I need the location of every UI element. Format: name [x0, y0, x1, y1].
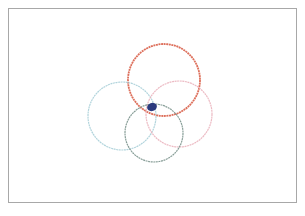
- circles-drawing: [0, 0, 305, 216]
- gray-green-circle: [125, 104, 183, 162]
